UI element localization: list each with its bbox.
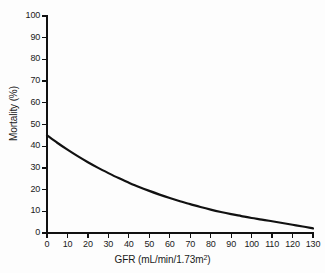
mortality-gfr-chart: 0102030405060708090100 01020304050607080… <box>0 0 325 273</box>
data-curve <box>0 0 325 273</box>
mortality-curve-path <box>47 135 313 228</box>
y-axis-title: Mortality (%) <box>8 54 19 174</box>
x-axis-title: GFR (mL/min/1.73m2) <box>0 254 325 265</box>
x-axis-title-base: GFR (mL/min/1.73m <box>115 254 204 265</box>
x-axis-title-tail: ) <box>207 254 210 265</box>
